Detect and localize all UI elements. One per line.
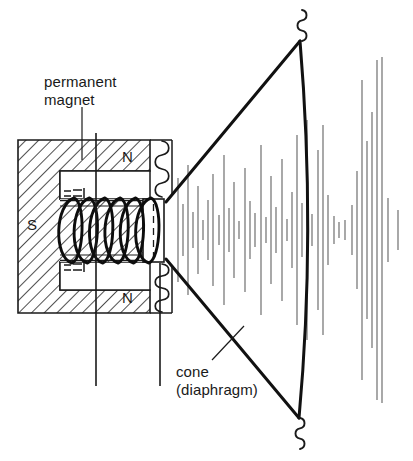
pole-label-north-top: N: [122, 148, 133, 165]
label-cone-diaphragm: cone (diaphragm): [176, 363, 258, 400]
label-cone-line1: cone: [176, 363, 258, 381]
pole-label-south: S: [27, 216, 37, 233]
label-cone-line2: (diaphragm): [176, 381, 258, 399]
lower-air-gap: [60, 262, 150, 290]
upper-air-gap: [60, 171, 150, 199]
pole-label-north-bottom: N: [122, 289, 133, 306]
label-permanent-magnet: permanent magnet: [44, 73, 117, 110]
label-permanent-magnet-line2: magnet: [44, 91, 117, 109]
label-permanent-magnet-line1: permanent: [44, 73, 117, 91]
loudspeaker-diagram-figure: permanent magnet cone (diaphragm) N S N: [0, 0, 413, 461]
